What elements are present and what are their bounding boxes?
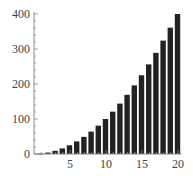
- bar: [88, 132, 93, 154]
- x-tick-label: 5: [67, 157, 73, 171]
- bar: [81, 137, 86, 154]
- bar: [67, 145, 72, 154]
- x-tick-label: 15: [136, 157, 148, 171]
- bar: [103, 119, 108, 154]
- bar: [139, 75, 144, 154]
- bar: [132, 85, 137, 154]
- y-tick-label: 100: [12, 112, 30, 126]
- bars-group: [38, 14, 180, 154]
- bar: [168, 28, 173, 154]
- x-tick-label: 10: [100, 157, 112, 171]
- bar: [160, 41, 165, 154]
- bar: [96, 126, 101, 154]
- bar: [74, 141, 79, 154]
- y-tick-label: 200: [12, 77, 30, 91]
- bar: [153, 53, 158, 154]
- x-tick-label: 20: [172, 157, 184, 171]
- y-tick-label: 400: [12, 7, 30, 21]
- y-tick-label: 300: [12, 42, 30, 56]
- bar: [175, 14, 180, 154]
- bar-chart: 01002003004005101520: [0, 0, 195, 176]
- bar: [124, 95, 129, 154]
- bar: [146, 64, 151, 154]
- bar: [117, 104, 122, 154]
- y-tick-label: 0: [24, 147, 30, 161]
- bar: [60, 148, 65, 154]
- bar: [110, 112, 115, 154]
